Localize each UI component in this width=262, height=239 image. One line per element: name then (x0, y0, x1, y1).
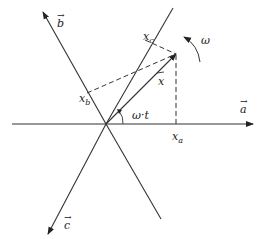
c-axis (48, 124, 106, 234)
rotation-arc (184, 37, 200, 62)
angle-label: ω·t (132, 110, 149, 121)
diagram-canvas (0, 0, 262, 239)
xc-label: xc (143, 31, 154, 45)
vector-x-label: x (158, 76, 164, 87)
b-axis-negative-line (106, 124, 161, 219)
xa-label: xa (172, 131, 183, 145)
c-axis-label: →c (64, 220, 70, 231)
omega-label: ω (201, 35, 210, 46)
b-axis-label: →b (57, 18, 64, 29)
a-axis-label: →a (240, 104, 247, 115)
xb-label: xb (79, 93, 90, 107)
b-axis (43, 12, 106, 124)
c-axis-negative-line (106, 8, 173, 124)
